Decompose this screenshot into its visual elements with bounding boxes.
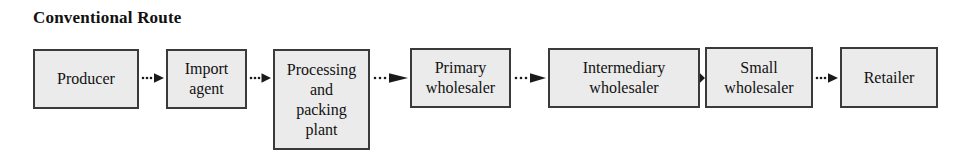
node-producer-label: Producer [53, 69, 119, 89]
node-import-agent[interactable]: Import agent [166, 49, 247, 109]
connector-processing-packing-plant-to-primary-wholesaler [372, 71, 409, 85]
node-primary-wholesaler[interactable]: Primary wholesaler [410, 48, 511, 108]
conventional-route-diagram: Conventional Route Producer Import agent… [0, 0, 953, 155]
node-processing-packing-plant[interactable]: Processing and packing plant [273, 49, 370, 150]
diagram-title: Conventional Route [33, 8, 182, 28]
connector-primary-wholesaler-to-intermediary-wholesaler [513, 71, 547, 85]
node-small-wholesaler[interactable]: Small wholesaler [705, 47, 813, 108]
node-intermediary-wholesaler[interactable]: Intermediary wholesaler [548, 48, 700, 108]
node-producer[interactable]: Producer [33, 49, 139, 109]
connector-small-wholesaler-to-retailer [815, 71, 839, 85]
node-small-wholesaler-label: Small wholesaler [720, 58, 797, 98]
node-primary-wholesaler-label: Primary wholesaler [422, 58, 499, 98]
node-retailer[interactable]: Retailer [840, 47, 938, 108]
node-retailer-label: Retailer [860, 68, 919, 88]
connector-producer-to-import-agent [141, 71, 165, 85]
connector-import-agent-to-processing-packing-plant [249, 71, 272, 85]
node-processing-packing-plant-label: Processing and packing plant [283, 60, 360, 140]
connector-intermediary-wholesaler-to-small-wholesaler [700, 71, 706, 85]
node-import-agent-label: Import agent [181, 59, 233, 99]
node-intermediary-wholesaler-label: Intermediary wholesaler [579, 58, 670, 98]
